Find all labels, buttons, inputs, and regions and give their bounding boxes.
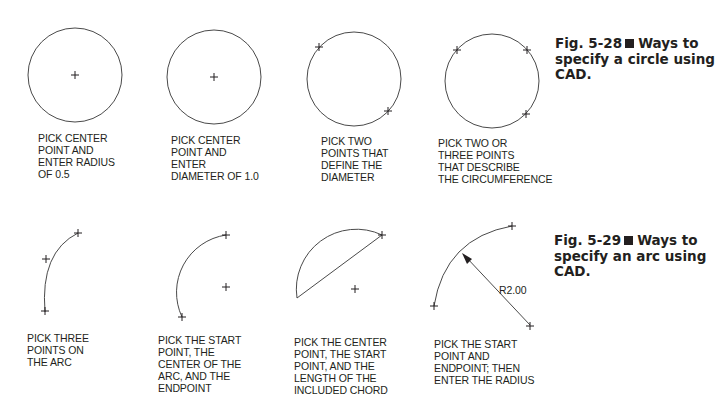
pick-point-icon [210,73,218,81]
figure-title-line: Ways to [637,232,697,248]
radius-dimension-label: R2.00 [499,284,527,296]
caption-arc-start-center-end: PICK THE START POINT, THE CENTER OF THE … [158,334,241,394]
pick-point-icon [378,231,386,239]
figure-number: Fig. 5-29 [554,232,621,248]
square-bullet-icon [625,39,634,48]
pick-point-icon [508,222,516,230]
figure-title-line: specify a circle using [555,51,715,67]
pick-point-icon [526,322,534,330]
pick-point-icon [42,255,50,263]
circle-center-diameter [167,30,261,124]
pick-point-icon [351,285,359,293]
figure-title-line: CAD. [554,263,591,279]
circle-center-radius [28,28,122,122]
caption-circle-diameter: PICK CENTER POINT AND ENTER DIAMETER OF … [171,134,259,182]
circle-three-points [445,34,539,128]
figure-title-line: Ways to [638,35,698,51]
pick-point-icon [222,283,230,291]
caption-circle-radius: PICK CENTER POINT AND ENTER RADIUS OF 0.… [38,132,115,180]
pick-point-icon [74,229,82,237]
circle-two-points [307,32,401,126]
arc-start-center-end [177,231,230,321]
pick-point-icon [430,302,438,310]
pick-point-icon [41,307,49,315]
caption-arc-chord: PICK THE CENTER POINT, THE START POINT, … [294,336,388,396]
caption-arc-three-points: PICK THREE POINTS ON THE ARC [27,332,89,368]
pick-point-icon [71,71,79,79]
figure-title-line: CAD. [555,66,592,82]
figure-caption-5-29: Fig. 5-29Ways to specify an arc using CA… [554,233,717,280]
arc-three-points [41,229,82,315]
arc-start-end-radius [430,222,534,330]
figure-title-line: specify an arc using [554,248,706,264]
figure-number: Fig. 5-28 [555,35,622,51]
caption-circle-three-points: PICK TWO OR THREE POINTS THAT DESCRIBE T… [438,137,552,185]
pick-point-icon [178,313,186,321]
square-bullet-icon [624,236,633,245]
caption-circle-two-points: PICK TWO POINTS THAT DEFINE THE DIAMETER [321,135,388,183]
pick-point-icon [222,231,230,239]
caption-arc-radius: PICK THE START POINT AND ENDPOINT; THEN … [434,338,534,386]
arc-center-start-chord [296,229,386,298]
figure-caption-5-28: Fig. 5-28Ways to specify a circle using … [555,36,717,83]
